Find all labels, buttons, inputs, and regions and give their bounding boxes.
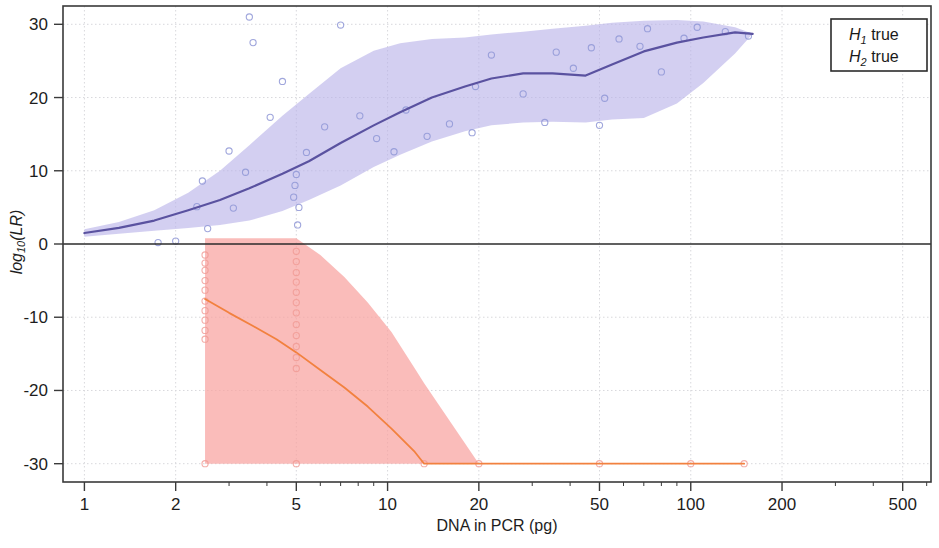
x-tick-label: 20 <box>469 495 488 514</box>
y-tick-label: -30 <box>23 455 48 474</box>
y-tick-label: 20 <box>29 89 48 108</box>
y-tick-label: 10 <box>29 162 48 181</box>
y-tick-label: -20 <box>23 381 48 400</box>
y-axis-title-tail: (LR) <box>8 210 25 241</box>
x-tick-label: 50 <box>590 495 609 514</box>
x-axis-title: DNA in PCR (pg) <box>437 517 558 534</box>
x-tick-label: 100 <box>677 495 705 514</box>
x-tick-label: 1 <box>80 495 89 514</box>
x-tick-label: 200 <box>768 495 796 514</box>
x-tick-label: 500 <box>888 495 916 514</box>
legend-h1-symbol: H <box>849 26 861 43</box>
x-tick-label: 2 <box>171 495 180 514</box>
y-tick-label: -10 <box>23 308 48 327</box>
y-axis-title-sub: 10 <box>15 240 27 253</box>
y-tick-label: 0 <box>39 235 48 254</box>
y-axis-title-main: log <box>8 253 25 274</box>
chart-figure: 125102050100200500 3020100-10-20-30 DNA … <box>0 0 939 548</box>
legend-h2-tail: true <box>867 48 899 65</box>
legend-h1-tail: true <box>867 26 899 43</box>
x-tick-label: 10 <box>378 495 397 514</box>
legend: H1 true H2 true <box>831 19 927 71</box>
legend-h2-symbol: H <box>849 48 861 65</box>
x-tick-label: 5 <box>292 495 301 514</box>
legend-h2-subscript: 2 <box>860 56 867 68</box>
y-tick-label: 30 <box>29 15 48 34</box>
chart-canvas: 125102050100200500 3020100-10-20-30 DNA … <box>0 0 939 548</box>
